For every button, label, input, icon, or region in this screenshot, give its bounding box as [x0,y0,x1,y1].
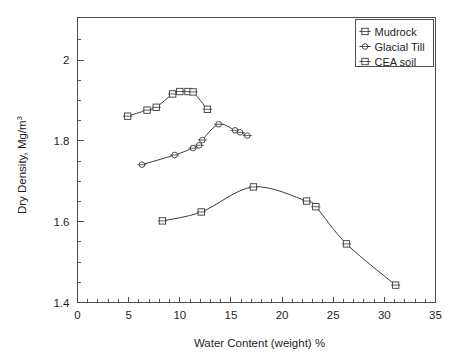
x-tick-label: 30 [378,309,391,321]
y-tick-label: 1.4 [54,297,71,309]
x-axis-title: Water Content (weight) % [194,337,325,349]
legend-label: Mudrock [375,26,418,38]
chart-legend[interactable]: MudrockGlacial TillCEA soil [356,20,434,68]
y-tick-label: 1.8 [54,135,70,147]
y-tick-label: 1.6 [54,216,70,228]
x-tick-label: 5 [125,309,131,321]
legend-label: CEA soil [375,56,417,68]
chart-figure: 051015202530351.41.61.82 Water Content (… [0,0,463,363]
x-tick-label: 35 [429,309,442,321]
x-tick-label: 25 [327,309,340,321]
chart-canvas: 051015202530351.41.61.82 Water Content (… [0,0,463,363]
y-tick-label: 2 [63,54,69,66]
y-axis-title-group: Dry Density, Mg/m3 [15,115,28,214]
legend-label: Glacial Till [375,41,425,53]
x-tick-label: 20 [276,309,289,321]
x-tick-label: 10 [173,309,186,321]
x-tick-label: 0 [74,309,80,321]
x-tick-label: 15 [225,309,238,321]
y-axis-title: Dry Density, Mg/m3 [15,115,28,214]
